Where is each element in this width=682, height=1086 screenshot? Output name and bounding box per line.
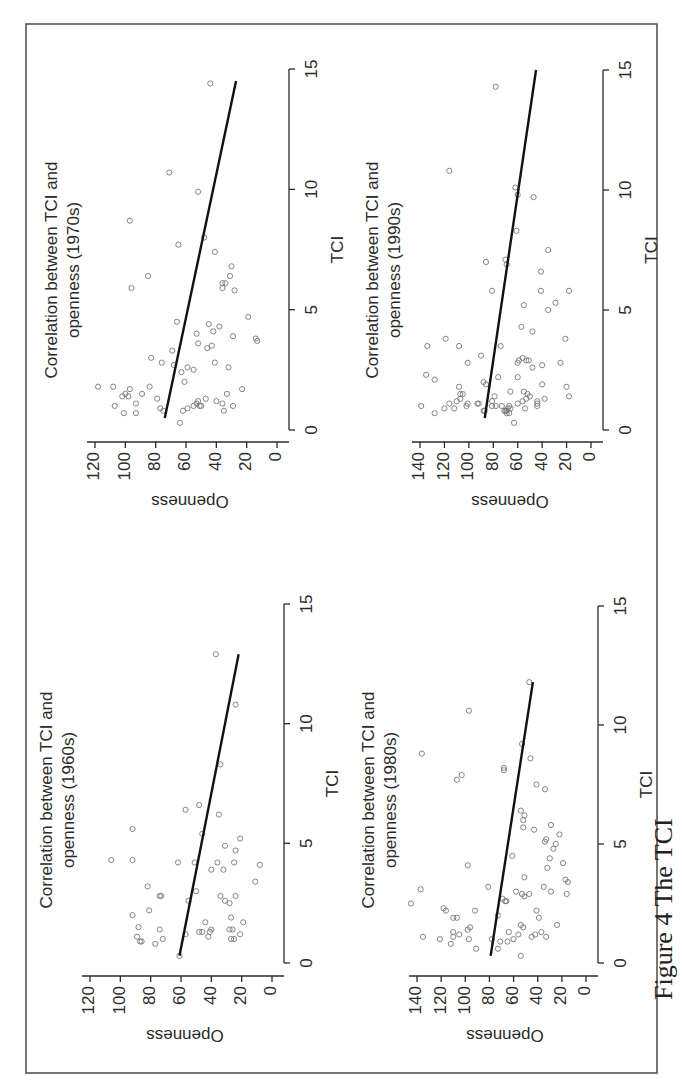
data-point: [238, 836, 243, 841]
data-point: [465, 360, 470, 365]
data-point: [566, 394, 571, 399]
data-point: [521, 303, 526, 308]
openness-tick-label: 120: [84, 452, 103, 480]
data-point: [241, 920, 246, 925]
data-point: [229, 264, 234, 269]
x-axis-label: TCI: [323, 770, 342, 797]
y-axis-label: Openness: [466, 1026, 544, 1045]
tci-tick-label: 10: [297, 714, 316, 733]
data-point: [130, 913, 135, 918]
data-point: [133, 401, 138, 406]
data-point: [496, 375, 501, 380]
figure-page: 051015TCI020406080100120OpennessCorrelat…: [0, 0, 682, 1086]
data-point: [170, 348, 175, 353]
data-point: [522, 406, 527, 411]
tci-tick-label: 5: [302, 305, 321, 314]
data-point: [425, 343, 430, 348]
data-point: [534, 782, 539, 787]
data-point: [539, 929, 544, 934]
data-point: [551, 846, 556, 851]
data-point: [214, 399, 219, 404]
data-point: [457, 932, 462, 937]
data-point: [257, 862, 262, 867]
data-point: [547, 856, 552, 861]
data-point: [130, 826, 135, 831]
data-point: [197, 802, 202, 807]
openness-tick-label: 0: [575, 986, 594, 995]
data-point: [155, 396, 160, 401]
data-point: [518, 953, 523, 958]
tci-tick-label: 15: [297, 595, 316, 614]
data-point: [194, 331, 199, 336]
data-point: [548, 889, 553, 894]
data-point: [545, 865, 550, 870]
x-axis-label: TCI: [642, 236, 661, 263]
tci-tick-label: 10: [611, 716, 630, 735]
data-point: [424, 372, 429, 377]
data-point: [127, 386, 132, 391]
data-point: [230, 334, 235, 339]
data-point: [213, 652, 218, 657]
data-point: [221, 867, 226, 872]
data-point: [558, 360, 563, 365]
data-point: [432, 411, 437, 416]
data-point: [538, 288, 543, 293]
openness-tick-label: 20: [551, 986, 570, 1005]
tci-tick-label: 0: [302, 425, 321, 434]
data-point: [530, 365, 535, 370]
data-point: [420, 934, 425, 939]
data-point: [528, 756, 533, 761]
regression-line: [179, 654, 238, 956]
data-point: [456, 384, 461, 389]
openness-tick-label: 100: [455, 986, 474, 1014]
data-point: [510, 853, 515, 858]
data-point: [130, 857, 135, 862]
data-point: [498, 343, 503, 348]
tci-tick-label: 5: [616, 305, 635, 314]
data-point: [157, 927, 162, 932]
tci-tick-label: 15: [302, 60, 321, 79]
data-point: [232, 288, 237, 293]
y-axis-label: Openness: [151, 492, 229, 511]
data-point: [451, 915, 456, 920]
scatter-panel: 051015TCI020406080100120OpennessCorrelat…: [37, 595, 342, 1045]
data-point: [174, 319, 179, 324]
data-point: [531, 195, 536, 200]
data-point: [215, 860, 220, 865]
scatter-panel: 051015TCI020406080100120140OpennessCorre…: [363, 61, 661, 511]
y-axis-label: Openness: [146, 1026, 224, 1045]
data-point: [177, 420, 182, 425]
data-point: [134, 934, 139, 939]
data-point: [447, 401, 452, 406]
data-point: [456, 343, 461, 348]
data-point: [540, 363, 545, 368]
data-point: [521, 818, 526, 823]
tci-tick-label: 5: [297, 839, 316, 848]
data-point: [224, 391, 229, 396]
scatter-panel: 051015TCI020406080100120140OpennessCorre…: [359, 597, 656, 1045]
data-point: [111, 384, 116, 389]
data-point: [442, 406, 447, 411]
openness-tick-label: 40: [532, 452, 551, 471]
data-point: [553, 300, 558, 305]
openness-tick-label: 40: [527, 986, 546, 1005]
openness-tick-label: 60: [503, 986, 522, 1005]
data-point: [483, 259, 488, 264]
data-point: [240, 386, 245, 391]
chart-title: Correlation between TCI andopenness (197…: [42, 161, 83, 378]
openness-tick-label: 20: [236, 452, 255, 471]
regression-line: [485, 70, 536, 418]
data-point: [121, 411, 126, 416]
data-point: [527, 680, 532, 685]
data-point: [548, 822, 553, 827]
data-point: [495, 946, 500, 951]
data-point: [133, 411, 138, 416]
openness-tick-label: 80: [479, 986, 498, 1005]
data-point: [564, 384, 569, 389]
data-point: [454, 777, 459, 782]
data-point: [206, 934, 211, 939]
openness-tick-label: 120: [431, 986, 450, 1014]
data-point: [515, 401, 520, 406]
data-point: [513, 889, 518, 894]
data-point: [540, 382, 545, 387]
